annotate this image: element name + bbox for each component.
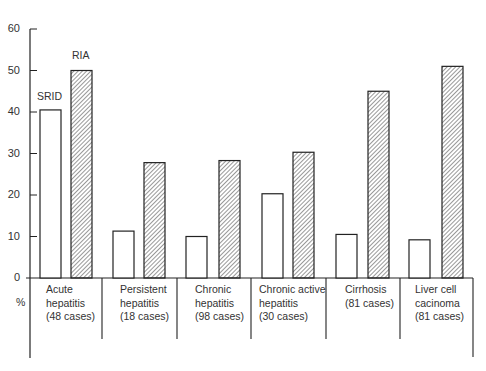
bar-srid	[113, 231, 134, 278]
bar-ria	[71, 71, 92, 279]
category-label: Liver cell cacinoma (81 cases)	[415, 283, 464, 324]
bar-ria	[368, 91, 389, 278]
bars	[40, 66, 463, 278]
y-unit-label: %	[16, 296, 25, 309]
category-label: Acute hepatitis (48 cases)	[46, 283, 95, 324]
y-tick-label: 0	[0, 271, 20, 283]
bar-srid	[262, 194, 283, 278]
category-label: Persistent hepatitis (18 cases)	[120, 283, 169, 324]
y-tick-label: 60	[0, 22, 20, 34]
y-tick-label: 10	[0, 230, 20, 242]
y-tick-label: 20	[0, 188, 20, 200]
legend-srid-label: SRID	[37, 90, 62, 103]
category-label: Chronic active hepatitis (30 cases)	[259, 283, 326, 324]
bar-ria	[293, 152, 314, 278]
y-tick-label: 50	[0, 64, 20, 76]
bar-ria	[144, 163, 165, 278]
bar-srid	[336, 234, 357, 278]
bar-ria	[442, 66, 463, 278]
bar-srid	[409, 240, 430, 278]
bar-srid	[186, 237, 207, 279]
category-label: Cirrhosis (81 cases)	[345, 283, 394, 310]
y-tick-label: 40	[0, 105, 20, 117]
bar-ria	[219, 161, 240, 278]
category-label: Chronic hepatitis (98 cases)	[195, 283, 244, 324]
legend-ria-label: RIA	[72, 49, 90, 62]
y-tick-label: 30	[0, 147, 20, 159]
bar-srid	[40, 110, 61, 278]
